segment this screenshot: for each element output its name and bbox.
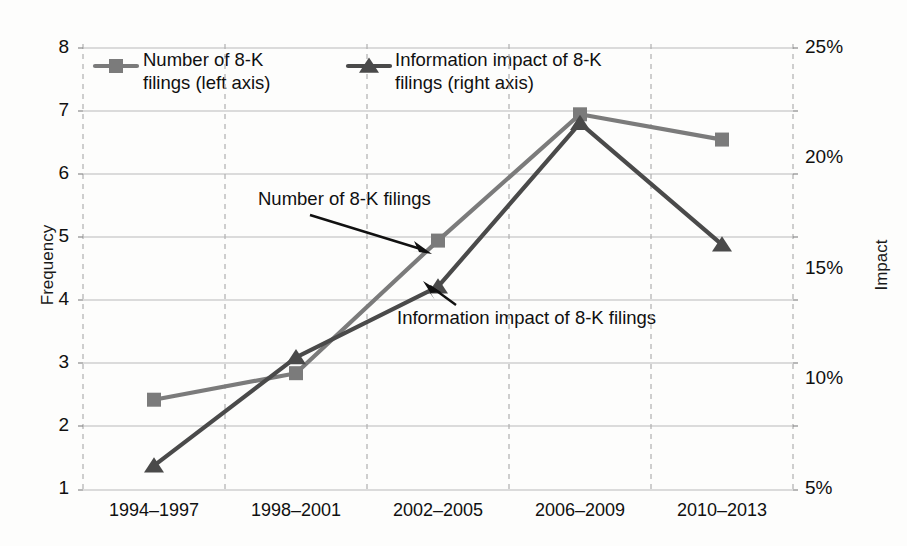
legend-marker-square — [95, 59, 137, 73]
data-point-square — [147, 393, 161, 407]
series-impact — [144, 115, 732, 473]
data-point-square — [109, 59, 123, 73]
plot-canvas — [0, 0, 907, 546]
chart-figure: Frequency Impact 8 7 6 5 4 3 2 1 25% 20%… — [0, 0, 907, 546]
legend-marker-triangle — [348, 58, 390, 73]
axis-tick-marks — [78, 48, 798, 490]
data-point-square — [289, 366, 303, 380]
series-line — [154, 114, 722, 399]
series-frequency — [147, 107, 729, 406]
horizontal-gridlines — [83, 48, 793, 490]
data-point-square — [715, 133, 729, 147]
data-point-square — [431, 234, 445, 248]
data-point-triangle — [286, 349, 306, 364]
